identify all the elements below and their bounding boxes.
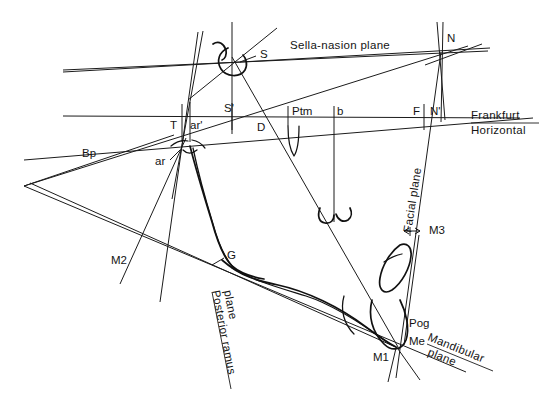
ar-mark-bottom (183, 150, 197, 153)
label-leader-G (212, 258, 224, 265)
label-point-D: D (257, 121, 265, 133)
label-point-b: b (337, 105, 343, 117)
label-frankfurt-line1: Frankfurt (471, 109, 520, 121)
label-point-M2: M2 (111, 254, 127, 266)
ptm-fissure-outline (288, 126, 299, 156)
label-point-T: T (170, 119, 177, 131)
label-point-M1: M1 (373, 351, 389, 363)
label-point-ar-prime: ar' (190, 119, 202, 131)
left-triangle-upper-edge (24, 135, 174, 186)
nasion-oblique-line (425, 44, 482, 65)
label-facial-plane: Facial plane (401, 167, 423, 234)
bp-to-menton-line (30, 183, 400, 349)
label-point-Pog: Pog (409, 317, 429, 329)
label-point-N-prime: N' (430, 105, 441, 117)
ar-mark-left (171, 141, 188, 146)
label-point-ar: ar (155, 155, 165, 167)
posterior-ramus-plane-line (160, 32, 198, 302)
label-frankfurt-line2: Horizontal (471, 124, 526, 136)
label-point-M3: M3 (429, 224, 445, 236)
label-point-Bp: Bp (82, 147, 96, 159)
label-point-S-prime: S' (224, 102, 234, 114)
label-point-Me: Me (409, 335, 425, 347)
incisor-crown-line (384, 254, 402, 262)
m1-lower-stroke (388, 348, 396, 382)
ar-descending-line (120, 138, 186, 284)
label-point-Ptm: Ptm (292, 105, 312, 117)
label-point-S: S (260, 48, 268, 60)
ar-mark-right (192, 140, 205, 148)
mandible-lower-border (222, 260, 396, 347)
sella-to-menton-line (232, 57, 398, 347)
incisor-outline (380, 244, 412, 292)
label-point-F: F (413, 105, 420, 117)
sella-nasion-plane-line (63, 48, 490, 72)
mandible-inner-border (232, 268, 390, 344)
symphysis-outline (371, 300, 408, 349)
menton-lower-stroke (398, 349, 420, 380)
label-point-N: N (447, 32, 455, 44)
label-sella-nasion-plane: Sella-nasion plane (290, 39, 390, 51)
maxilla-curl-right (336, 208, 351, 221)
label-point-G: G (227, 249, 236, 261)
cephalometric-diagram: S Sella-nasion plane N S' T ar' ar Bp D … (0, 0, 545, 407)
diagram-canvas: S Sella-nasion plane N S' T ar' ar Bp D … (0, 0, 545, 407)
